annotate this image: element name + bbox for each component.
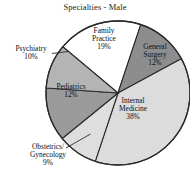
pie-label-pediatrics: Pediatrics 12% xyxy=(44,83,98,99)
pie-chart-figure: Specialties - Male Family Practice 19% G… xyxy=(0,0,190,175)
pie-label-family-practice: Family Practice 19% xyxy=(78,27,130,52)
pie-label-psychiatry-percent: 10% xyxy=(2,53,60,61)
pie-label-psychiatry: Psychiatry 10% xyxy=(2,45,60,61)
pie-label-general-surgery: General Surgery 12% xyxy=(128,43,182,68)
pie-label-internal-medicine-percent: 38% xyxy=(104,113,162,121)
pie-label-pediatrics-percent: 12% xyxy=(44,91,98,99)
pie-label-general-surgery-percent: 12% xyxy=(128,59,182,67)
pie-label-internal-medicine: Internal Medicine 38% xyxy=(104,97,162,122)
pie-label-obstetrics-percent: 9% xyxy=(14,159,82,167)
pie-label-obstetrics-gynecology: Obstetrics/ Gynecology 9% xyxy=(14,143,82,168)
pie-label-family-practice-percent: 19% xyxy=(78,43,130,51)
